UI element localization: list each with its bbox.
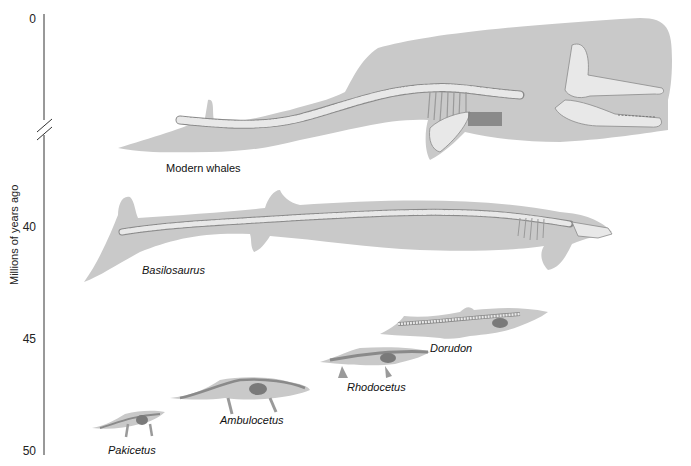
label-modern-whales: Modern whales <box>166 162 241 174</box>
tick-50: 50 <box>6 444 36 458</box>
ambulocetus-illustration <box>170 377 310 414</box>
label-pakicetus: Pakicetus <box>108 444 156 456</box>
diagram-artwork <box>0 0 691 466</box>
label-rhodocetus: Rhodocetus <box>347 381 406 393</box>
axis-title: Millions of years ago <box>8 185 20 285</box>
label-ambulocetus: Ambulocetus <box>220 414 284 426</box>
label-basilosaurus: Basilosaurus <box>142 264 205 276</box>
label-dorudon: Dorudon <box>430 342 472 354</box>
whale-evolution-diagram: 0 40 45 50 Millions of years ago Modern … <box>0 0 691 466</box>
tick-0: 0 <box>6 12 36 26</box>
rhodocetus-illustration <box>320 347 430 378</box>
modern-whale-illustration <box>118 18 672 160</box>
time-axis <box>37 14 52 455</box>
pakicetus-illustration <box>92 411 165 437</box>
dorudon-illustration <box>380 307 548 339</box>
tick-45: 45 <box>6 332 36 346</box>
